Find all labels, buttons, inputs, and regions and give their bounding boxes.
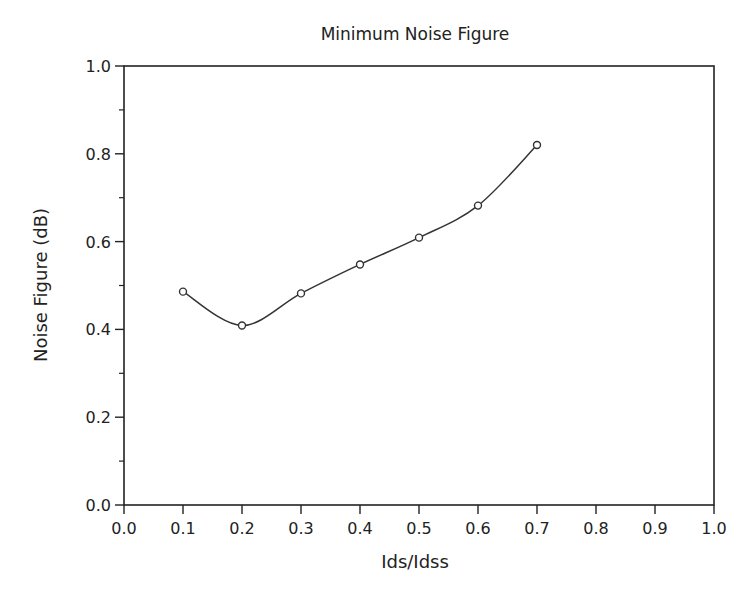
y-axis-label: Noise Figure (dB)	[30, 208, 51, 362]
x-axis: 0.00.10.20.30.40.50.60.70.80.91.0	[111, 505, 726, 538]
x-axis-label: Ids/Idss	[381, 551, 449, 572]
x-tick-label: 0.4	[347, 519, 372, 538]
y-tick-label: 0.2	[86, 408, 111, 427]
y-tick-label: 0.4	[86, 320, 111, 339]
y-tick-label: 0.0	[86, 496, 111, 515]
x-tick-label: 0.8	[583, 519, 608, 538]
series-markers	[180, 142, 541, 329]
x-tick-label: 0.2	[229, 519, 254, 538]
x-tick-label: 0.0	[111, 519, 136, 538]
y-tick-label: 0.6	[86, 233, 111, 252]
chart: Minimum Noise Figure 0.00.10.20.30.40.50…	[0, 0, 746, 605]
data-point-marker	[239, 322, 246, 329]
data-point-marker	[357, 261, 364, 268]
y-tick-label: 1.0	[86, 57, 111, 76]
x-tick-label: 0.9	[642, 519, 667, 538]
data-point-marker	[298, 290, 305, 297]
y-tick-label: 0.8	[86, 145, 111, 164]
data-point-marker	[180, 288, 187, 295]
x-tick-label: 0.7	[524, 519, 549, 538]
x-tick-label: 0.1	[170, 519, 195, 538]
y-axis: 0.00.20.40.60.81.0	[86, 57, 124, 515]
x-tick-label: 1.0	[701, 519, 726, 538]
data-point-marker	[475, 202, 482, 209]
data-point-marker	[534, 142, 541, 149]
x-tick-label: 0.3	[288, 519, 313, 538]
x-tick-label: 0.5	[406, 519, 431, 538]
series-line	[183, 145, 537, 325]
x-tick-label: 0.6	[465, 519, 490, 538]
data-point-marker	[416, 234, 423, 241]
plot-frame	[124, 66, 714, 505]
chart-title: Minimum Noise Figure	[321, 24, 510, 44]
